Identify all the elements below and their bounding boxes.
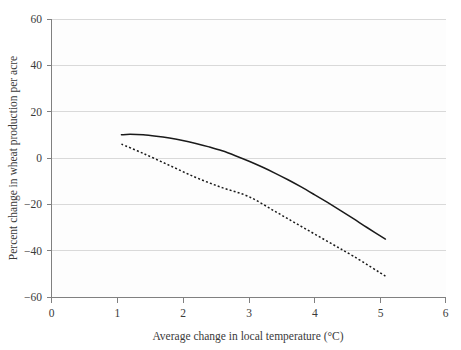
xtick-label-6: 6 [443,307,449,319]
line-chart-svg: 60 40 20 0 −20 −40 −60 0 1 2 3 4 5 6 Ave… [0,0,461,350]
chart-figure: 60 40 20 0 −20 −40 −60 0 1 2 3 4 5 6 Ave… [0,0,461,350]
x-axis-title: Average change in local temperature (°C) [152,330,343,343]
xtick-label-2: 2 [180,307,186,319]
xtick-label-5: 5 [378,307,384,319]
ytick-label-neg40: −40 [24,245,42,257]
ytick-label-0: 0 [36,152,42,164]
ytick-label-neg60: −60 [24,291,42,303]
xtick-label-0: 0 [49,307,55,319]
xtick-label-1: 1 [114,307,120,319]
xtick-label-4: 4 [312,307,318,319]
ytick-label-60: 60 [31,13,43,25]
ytick-label-40: 40 [31,59,43,71]
xtick-label-3: 3 [246,307,252,319]
ytick-label-20: 20 [31,106,43,118]
ytick-label-neg20: −20 [24,198,42,210]
y-axis-title: Percent change in wheat production per a… [7,56,20,260]
